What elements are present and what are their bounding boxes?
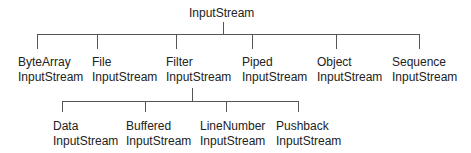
node-file-inputstream: File InputStream — [92, 55, 157, 85]
node-label: Data — [53, 119, 118, 134]
node-label: InputStream — [242, 70, 307, 85]
connector — [419, 34, 420, 49]
node-label: File — [92, 55, 157, 70]
connector — [62, 101, 63, 112]
node-label: Piped — [242, 55, 307, 70]
node-label: InputStream — [317, 70, 382, 85]
node-inputstream: InputStream — [189, 6, 254, 21]
node-piped-inputstream: Piped InputStream — [242, 55, 307, 85]
node-label: Pushback — [276, 119, 341, 134]
node-label: LineNumber — [200, 119, 265, 134]
node-pushback-inputstream: Pushback InputStream — [276, 119, 341, 149]
connector — [62, 101, 299, 102]
node-data-inputstream: Data InputStream — [53, 119, 118, 149]
node-linenumber-inputstream: LineNumber InputStream — [200, 119, 265, 149]
connector — [226, 101, 227, 112]
node-label: InputStream — [53, 134, 118, 149]
connector — [97, 34, 98, 49]
node-label: InputStream — [276, 134, 341, 149]
node-filter-inputstream: Filter InputStream — [166, 55, 231, 85]
node-label: Filter — [166, 55, 231, 70]
connector — [145, 101, 146, 112]
node-label: InputStream — [126, 134, 191, 149]
node-object-inputstream: Object InputStream — [317, 55, 382, 85]
node-label: InputStream — [189, 6, 254, 21]
connector — [252, 34, 253, 49]
node-label: InputStream — [166, 70, 231, 85]
connector — [192, 88, 193, 101]
node-label: ByteArray — [18, 55, 83, 70]
node-buffered-inputstream: Buffered InputStream — [126, 119, 191, 149]
node-label: InputStream — [92, 70, 157, 85]
connector — [298, 101, 299, 112]
node-label: InputStream — [200, 134, 265, 149]
connector — [223, 22, 224, 34]
node-label: Sequence — [392, 55, 457, 70]
connector — [176, 34, 177, 49]
connector — [37, 34, 38, 49]
node-label: InputStream — [392, 70, 457, 85]
node-label: Buffered — [126, 119, 191, 134]
node-label: Object — [317, 55, 382, 70]
connector — [37, 34, 420, 35]
node-sequence-inputstream: Sequence InputStream — [392, 55, 457, 85]
connector — [336, 34, 337, 49]
node-bytearray-inputstream: ByteArray InputStream — [18, 55, 83, 85]
node-label: InputStream — [18, 70, 83, 85]
